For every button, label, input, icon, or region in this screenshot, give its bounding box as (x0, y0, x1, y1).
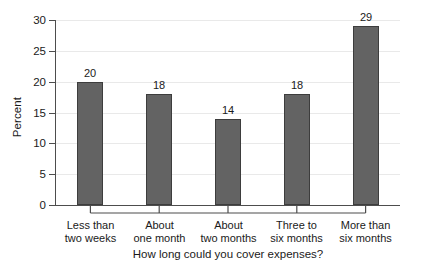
y-tick-label: 0 (22, 200, 46, 212)
x-tick-label-line2: two weeks (56, 232, 125, 245)
y-tick-label: 30 (22, 15, 46, 27)
x-axis-line (56, 205, 400, 206)
bar-value-label: 14 (208, 105, 248, 116)
bar-value-label: 29 (346, 12, 386, 23)
bar (215, 119, 241, 205)
x-tick-label-line2: six months (262, 232, 331, 245)
x-tick-label: Less thantwo weeks (56, 219, 125, 245)
x-tick-label-line2: six months (331, 232, 400, 245)
x-tick-label-line1: About (214, 219, 243, 231)
x-tick-label-line1: Less than (67, 219, 115, 231)
x-tick-label-line1: Three to (276, 219, 317, 231)
bar-value-label: 18 (139, 80, 179, 91)
bar (77, 82, 103, 205)
y-tick-label: 15 (22, 108, 46, 120)
x-tick-label-line1: More than (341, 219, 391, 231)
bar-chart: Percent 051015202530 2018141829 Less tha… (0, 0, 428, 274)
x-tick-label-line2: one month (125, 232, 194, 245)
x-tick-label: Three tosix months (262, 219, 331, 245)
y-tick-label: 25 (22, 46, 46, 58)
x-tick-label: Aboutone month (125, 219, 194, 245)
y-tick-label: 20 (22, 77, 46, 89)
y-tick-label: 10 (22, 138, 46, 150)
x-axis-title: How long could you cover expenses? (56, 248, 400, 260)
x-tick-label: Abouttwo months (194, 219, 263, 245)
x-tick-label-line2: two months (194, 232, 263, 245)
bar-value-label: 20 (70, 68, 110, 79)
bar (353, 26, 379, 205)
y-tick-label: 5 (22, 169, 46, 181)
bar (146, 94, 172, 205)
x-tick-label: More thansix months (331, 219, 400, 245)
bar-value-label: 18 (277, 80, 317, 91)
x-tick-label-line1: About (145, 219, 174, 231)
bar (284, 94, 310, 205)
